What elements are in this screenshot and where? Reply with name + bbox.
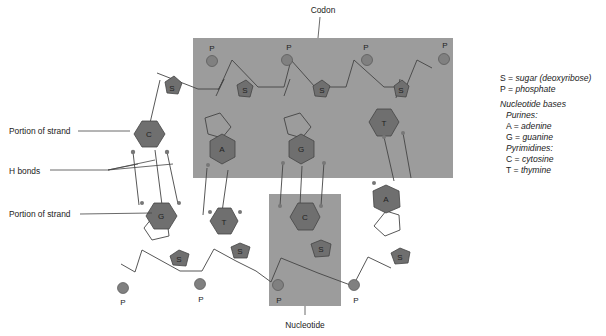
p-label: P [276, 296, 281, 305]
legend-heading: Nucleotide bases [500, 99, 591, 110]
phosphate-bottom-1 [118, 283, 129, 294]
phosphate-top-2 [282, 55, 293, 66]
phosphate-bottom-4 [349, 280, 360, 291]
nucleotide-label: Nucleotide [285, 320, 325, 330]
codon-label: Codon [311, 5, 336, 15]
legend-cytosine: C = cytosine [500, 154, 591, 165]
base-label: T [222, 218, 227, 227]
phosphate-bottom-2 [195, 279, 206, 290]
legend-adenine: A = adenine [500, 121, 591, 132]
phosphate-top-4 [439, 54, 450, 65]
base-label: G [158, 212, 164, 221]
phosphate-top-3 [362, 55, 373, 66]
s-label: S [398, 86, 403, 95]
legend-thymine: T = thymine [500, 165, 591, 176]
portion-of-strand-bottom-label: Portion of strand [9, 209, 71, 219]
s-label: S [176, 255, 181, 264]
p-label: P [120, 298, 125, 307]
s-label: S [397, 253, 402, 262]
base-label: A [219, 145, 225, 154]
legend-purines: Purines: [500, 110, 591, 121]
p-label: P [353, 296, 358, 305]
base-label: G [298, 145, 304, 154]
base-label: T [382, 119, 387, 128]
s-label: S [318, 245, 323, 254]
base-label: C [302, 213, 308, 222]
p-label: P [198, 295, 203, 304]
phosphate-top-1 [207, 56, 218, 67]
legend-guanine: G = guanine [500, 132, 591, 143]
legend: S = sugar (deoxyribose) P = phosphate Nu… [500, 73, 591, 176]
portion-of-strand-top-label: Portion of strand [9, 126, 71, 136]
p-label: P [442, 41, 447, 50]
phosphate-bottom-3 [273, 280, 284, 291]
s-label: S [319, 86, 324, 95]
p-label: P [363, 43, 368, 52]
s-label: S [242, 86, 247, 95]
s-label: S [169, 84, 174, 93]
legend-phosphate: P = phosphate [500, 84, 591, 95]
legend-sugar: S = sugar (deoxyribose) [500, 73, 591, 84]
legend-pyrimidines: Pyrimidines: [500, 143, 591, 154]
p-label: P [286, 43, 291, 52]
base-label: A [383, 195, 389, 204]
p-label: P [209, 44, 214, 53]
s-label: S [237, 247, 242, 256]
h-bonds-label: H bonds [9, 166, 40, 176]
base-label: C [146, 130, 152, 139]
